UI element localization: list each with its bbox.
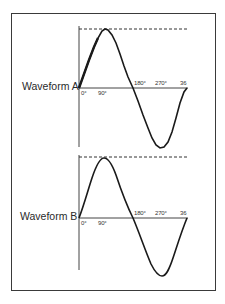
waveform-a-label: Waveform A (22, 80, 79, 92)
waveform-b-label: Waveform B (20, 210, 77, 222)
waveform-a-tick-270: 270° (155, 80, 167, 86)
waveform-a-tick-90: 90° (98, 90, 106, 96)
waveform-a-plot (79, 26, 189, 148)
waveform-b-tick-180: 180° (134, 210, 146, 216)
waveform-a-tick-360: 36 (180, 80, 186, 86)
waveform-plots (0, 0, 225, 304)
waveform-b-tick-0: 0° (81, 220, 86, 226)
waveform-b-tick-270: 270° (155, 210, 167, 216)
waveform-b-tick-90: 90° (98, 220, 106, 226)
waveform-a-tick-0: 0° (81, 90, 86, 96)
waveform-b-curve (79, 158, 187, 276)
waveform-a-tick-180: 180° (134, 80, 146, 86)
waveform-b-tick-360: 36 (180, 210, 186, 216)
